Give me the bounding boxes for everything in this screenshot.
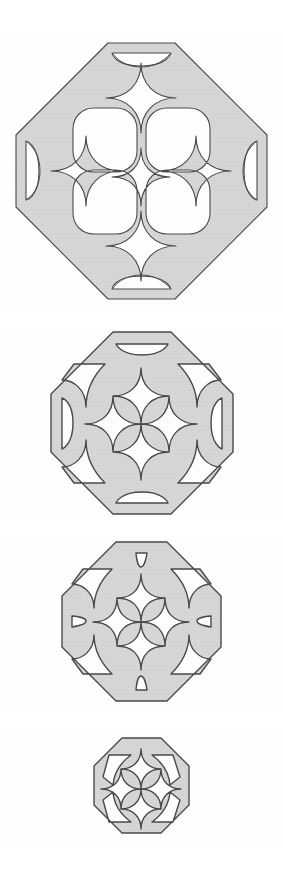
panel-1-svg <box>0 35 283 310</box>
panel-4-svg <box>0 733 283 848</box>
panel-1-crescent-details <box>26 53 257 289</box>
panel-4-geometry <box>94 738 189 833</box>
panel-3-svg <box>0 538 283 706</box>
drawing-sheet <box>0 0 283 882</box>
lattice-panel-3 <box>0 538 283 706</box>
panel-2-svg <box>0 328 283 520</box>
panel-2-geometry <box>51 332 233 514</box>
panel-3-geometry <box>62 542 221 701</box>
lattice-panel-2 <box>0 328 283 520</box>
lattice-panel-4 <box>0 733 283 848</box>
lattice-panel-1 <box>0 35 283 310</box>
panel-1-geometry <box>16 43 267 299</box>
